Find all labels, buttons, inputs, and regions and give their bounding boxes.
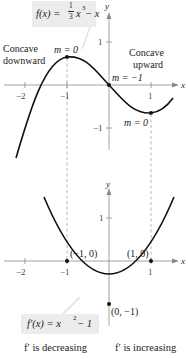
point-label-left-root: (−1, 0): [70, 248, 97, 259]
bottom-left-root-point: [65, 259, 69, 263]
top-xtick-neg1: −1: [60, 91, 70, 101]
slope-label-max: m = 0: [54, 44, 78, 55]
fraction-denominator: 3: [69, 12, 73, 21]
bottom-xtick-neg1: −1: [60, 267, 70, 277]
tail-text: − 1: [77, 318, 92, 329]
slope-label-min: m = 0: [124, 117, 148, 128]
x-text: x: [76, 8, 81, 19]
top-y-axis-label: y: [105, 1, 109, 12]
caption-decreasing: f′ is decreasing: [24, 342, 87, 353]
fx-text: f(x) =: [36, 8, 60, 19]
bottom-ytick-1: 1: [99, 213, 104, 223]
point-label-vertex: (0, −1): [111, 306, 138, 317]
top-curve-f: [16, 57, 173, 158]
top-xtick-neg2: −2: [16, 91, 26, 101]
top-x-arrow-icon: [172, 83, 179, 88]
top-ytick-1: 1: [98, 37, 103, 47]
fraction-numerator: 1: [69, 1, 73, 10]
concave-up-label-2: upward: [133, 59, 163, 70]
bottom-x-axis-label: x: [181, 256, 185, 267]
top-xtick-1: 1: [148, 91, 153, 101]
bottom-xtick-neg2: −2: [16, 267, 26, 277]
tail-text: − x: [85, 8, 99, 19]
exponent: 2: [73, 314, 77, 322]
caption-increasing: f′ is increasing: [115, 342, 176, 353]
bottom-x-arrow-icon: [172, 259, 179, 264]
point-label-right-root: (1, 0): [127, 248, 149, 259]
bottom-y-axis-label: y: [106, 179, 110, 190]
bottom-right-root-point: [149, 259, 153, 263]
fprime-x-text: f′(x) = x: [27, 318, 61, 329]
concave-down-label-2: downward: [3, 55, 45, 66]
slope-label-inflection: m = −1: [112, 72, 143, 83]
bottom-function-label: f′(x) = x 2 − 1: [21, 314, 99, 334]
top-function-label: f(x) = 1 3 x 3 − x: [32, 1, 96, 27]
top-y-arrow-icon: [107, 12, 112, 19]
bottom-xtick-1: 1: [148, 267, 153, 277]
top-ytick-neg1: −1: [93, 123, 103, 133]
concave-down-label-1: Concave: [3, 43, 38, 54]
top-inflection-point: [107, 83, 111, 87]
concave-up-label-1: Concave: [129, 47, 164, 58]
top-x-axis-label: x: [181, 80, 185, 91]
